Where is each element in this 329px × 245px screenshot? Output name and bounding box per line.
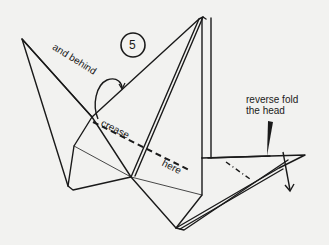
reverse-fold-pointer xyxy=(267,121,273,156)
origami-diagram: 5 and behind crease here reverse fold th… xyxy=(0,0,329,245)
down-arrow xyxy=(283,152,290,190)
reverse-fold-line1: reverse fold xyxy=(246,94,298,105)
reverse-fold-label: reverse fold the head xyxy=(246,94,298,116)
reverse-fold-line2: the head xyxy=(246,105,298,116)
fold-behind-arrow xyxy=(95,79,122,119)
body-top xyxy=(92,17,206,117)
head-fold-line xyxy=(226,162,250,179)
crane-fold-drawing xyxy=(0,0,329,245)
step-number: 5 xyxy=(129,39,136,51)
